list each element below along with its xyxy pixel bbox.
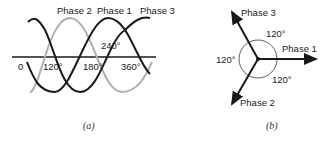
angle-240-label: 240° xyxy=(101,40,121,51)
phase-3-label-b: Phase 3 xyxy=(241,7,276,18)
caption-a: (a) xyxy=(83,120,95,132)
angle-0-label: 0 xyxy=(18,61,23,72)
angle-120-label: 120° xyxy=(43,61,63,72)
phase-1-label: Phase 1 xyxy=(97,5,132,16)
angle-label-bottom: 120° xyxy=(272,74,292,85)
angle-label-top: 120° xyxy=(266,28,286,39)
origin-dot xyxy=(256,57,260,61)
phasor-panel: Phase 3 Phase 1 Phase 2 120° 120° 120° (… xyxy=(216,7,317,132)
phase-1-label-b: Phase 1 xyxy=(282,43,317,54)
phase-3-vector xyxy=(232,12,258,59)
three-phase-diagram: Phase 2 Phase 1 Phase 3 0 120° 180° 240°… xyxy=(0,0,326,144)
angle-180-label: 180° xyxy=(83,61,103,72)
angle-label-left: 120° xyxy=(216,54,236,65)
phase-2-wave xyxy=(30,18,152,92)
phase-3-label: Phase 3 xyxy=(140,5,175,16)
phase-2-label-b: Phase 2 xyxy=(240,97,275,108)
waveform-panel: Phase 2 Phase 1 Phase 3 0 120° 180° 240°… xyxy=(12,5,175,132)
caption-b: (b) xyxy=(266,120,278,132)
angle-360-label: 360° xyxy=(121,61,141,72)
phase-2-label: Phase 2 xyxy=(57,5,92,16)
